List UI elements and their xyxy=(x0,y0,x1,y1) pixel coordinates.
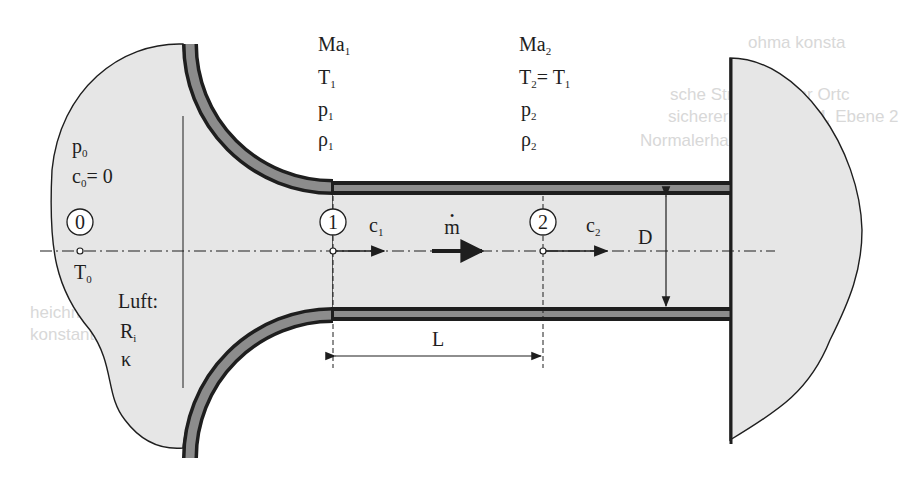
kappa-label: κ xyxy=(121,348,131,370)
state-point-2 xyxy=(540,248,546,254)
t1-label: T1 xyxy=(318,66,336,90)
marker-label: 1 xyxy=(328,211,338,233)
state-point-1 xyxy=(330,248,336,254)
state-point-0 xyxy=(77,248,83,254)
p1-label: p1 xyxy=(318,98,334,122)
length-label: L xyxy=(432,328,444,350)
mass-flow-symbol: m xyxy=(444,216,460,238)
marker-label: 2 xyxy=(538,211,548,233)
rho2-label: ρ2 xyxy=(521,128,536,152)
c0-label: c0= 0 xyxy=(72,165,113,189)
inlet-reservoir-region xyxy=(51,44,333,448)
state-marker-2: 2 xyxy=(530,209,556,235)
rho1-label: ρ1 xyxy=(318,128,333,152)
diameter-label: D xyxy=(638,226,652,248)
pipe-flow-diagram: ohma konsta sche Strömung vor Ortc siche… xyxy=(0,0,904,484)
ghost-line: ohma konsta xyxy=(748,33,846,52)
medium-label: Luft: xyxy=(118,290,158,312)
state-marker-0: 0 xyxy=(67,209,93,235)
marker-label: 0 xyxy=(75,211,85,233)
t2-label: T2= T1 xyxy=(519,66,570,90)
state-marker-1: 1 xyxy=(320,209,346,235)
ma1-label: Ma1 xyxy=(318,33,350,57)
p2-label: p2 xyxy=(521,98,537,122)
ma2-label: Ma2 xyxy=(519,33,551,57)
